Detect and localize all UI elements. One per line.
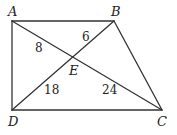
vertex-label-c: C — [157, 115, 167, 128]
vertex-label-d: D — [8, 115, 18, 128]
length-label-ae: 8 — [35, 42, 43, 54]
segment-bc — [114, 21, 162, 110]
vertex-label-e: E — [69, 64, 79, 77]
geometry-diagram: A B C D E 8 6 18 24 — [0, 0, 177, 135]
length-label-ce: 24 — [102, 84, 117, 96]
length-label-de: 18 — [44, 84, 59, 96]
vertex-label-b: B — [111, 5, 121, 18]
diagram-lines — [0, 0, 177, 135]
diagonal-bd — [12, 21, 114, 110]
vertex-label-a: A — [8, 5, 17, 18]
length-label-be: 6 — [82, 31, 90, 43]
